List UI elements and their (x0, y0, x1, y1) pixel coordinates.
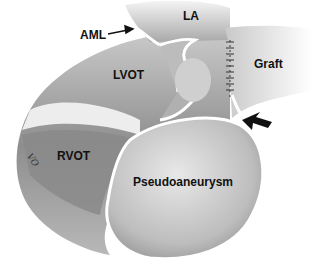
label-lvot: LVOT (113, 68, 144, 82)
aml-arrow (108, 26, 133, 34)
label-la: LA (183, 9, 199, 23)
defect-arrow (242, 112, 272, 130)
graft (225, 26, 312, 118)
label-graft: Graft (254, 57, 283, 71)
valve-cusp (175, 58, 211, 102)
label-rvot: RVOT (57, 149, 90, 163)
illustration: AML LA LVOT Graft RVOT Pseudoaneurysm VO (0, 0, 312, 266)
heart-drawing (0, 0, 312, 266)
left-atrium (125, 1, 230, 42)
label-pseudoaneurysm: Pseudoaneurysm (133, 175, 233, 189)
label-aml: AML (80, 28, 106, 42)
